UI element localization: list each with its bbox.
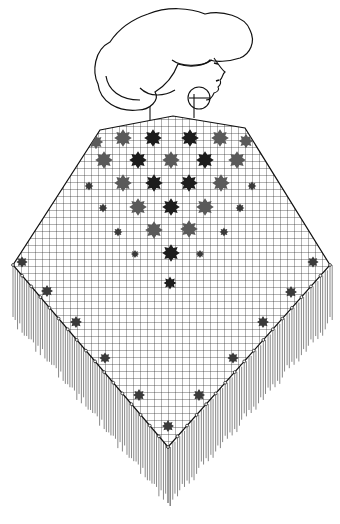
hoop-earring [188, 87, 210, 109]
shawl-illustration [0, 0, 340, 524]
hair [95, 9, 253, 111]
